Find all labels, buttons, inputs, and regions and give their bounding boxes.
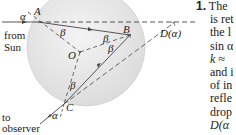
problem-number: 1. bbox=[196, 0, 206, 13]
label-alpha-in: α bbox=[20, 11, 26, 22]
label-alpha-out: α bbox=[52, 110, 58, 121]
label-d-alpha: D(α) bbox=[160, 28, 181, 39]
text-line: the l bbox=[210, 26, 236, 39]
label-observer: observer bbox=[2, 123, 40, 134]
label-beta-a: β bbox=[60, 27, 65, 38]
label-from: from bbox=[4, 30, 25, 41]
text-line: The bbox=[209, 0, 228, 13]
label-point-a: A bbox=[34, 6, 41, 17]
label-point-c: C bbox=[66, 102, 73, 113]
label-point-b: B bbox=[123, 24, 130, 35]
text-line: drop bbox=[210, 106, 236, 119]
raindrop-circle bbox=[27, 0, 145, 106]
text-column: 1. The is ret the l sin α k ≈ and i of i… bbox=[198, 0, 236, 132]
text-line: sin α bbox=[210, 40, 236, 53]
label-beta-c: β bbox=[70, 80, 75, 91]
text-line: D(α bbox=[210, 119, 236, 132]
text-line: refle bbox=[210, 92, 236, 105]
label-point-o: O bbox=[68, 50, 76, 61]
label-beta-b2: β bbox=[108, 43, 113, 54]
label-sun: Sun bbox=[4, 42, 21, 53]
